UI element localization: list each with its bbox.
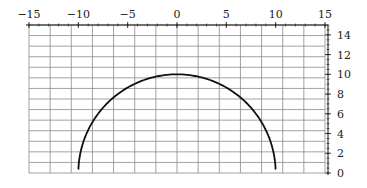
ticks [29, 22, 331, 173]
x-tick-label: 0 [174, 8, 181, 21]
y-tick-label: 14 [337, 29, 351, 42]
x-tick-label: −15 [17, 8, 40, 21]
x-tick-label: −10 [67, 8, 90, 21]
y-tick-label: 12 [337, 49, 351, 62]
x-tick-label: 5 [223, 8, 230, 21]
y-tick-label: 8 [337, 88, 344, 101]
y-tick-label: 6 [337, 108, 344, 121]
tick-labels: −15−10−505101502468101214 [17, 8, 351, 180]
x-tick-label: 15 [318, 8, 332, 21]
grid [29, 25, 325, 173]
y-tick-label: 2 [337, 147, 344, 160]
y-tick-label: 4 [337, 128, 344, 141]
y-tick-label: 0 [337, 167, 344, 180]
chart: −15−10−505101502468101214 [0, 0, 367, 188]
x-tick-label: −5 [120, 8, 136, 21]
y-tick-label: 10 [337, 68, 351, 81]
x-tick-label: 10 [269, 8, 283, 21]
